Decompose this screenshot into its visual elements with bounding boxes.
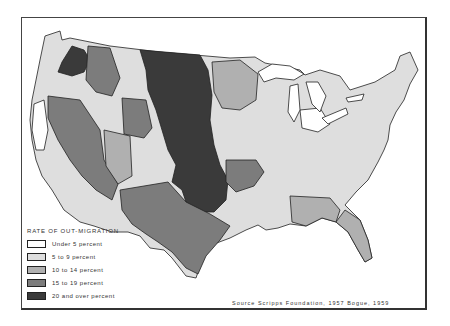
legend-label: Under 5 percent (52, 241, 103, 247)
legend-swatch-10-14 (27, 266, 46, 274)
legend-swatch-under5 (27, 240, 46, 248)
legend: RATE OF OUT-MIGRATION Under 5 percent 5 … (27, 228, 119, 302)
legend-item: Under 5 percent (27, 237, 119, 250)
region-10-14-southeast (290, 196, 340, 226)
source-citation: Source Scripps Foundation, 1957 Bogue, 1… (232, 300, 389, 306)
legend-label: 5 to 9 percent (52, 254, 96, 260)
legend-item: 10 to 14 percent (27, 263, 119, 276)
legend-label: 15 to 19 percent (52, 280, 103, 286)
legend-swatch-5-9 (27, 253, 46, 261)
legend-label: 10 to 14 percent (52, 267, 103, 273)
legend-item: 5 to 9 percent (27, 250, 119, 263)
legend-label: 20 and over percent (52, 293, 115, 299)
legend-swatch-15-19 (27, 279, 46, 287)
legend-swatch-20plus (27, 292, 46, 300)
legend-title: RATE OF OUT-MIGRATION (27, 228, 119, 234)
legend-item: 15 to 19 percent (27, 276, 119, 289)
legend-item: 20 and over percent (27, 289, 119, 302)
region-10-14-florida (336, 210, 372, 262)
